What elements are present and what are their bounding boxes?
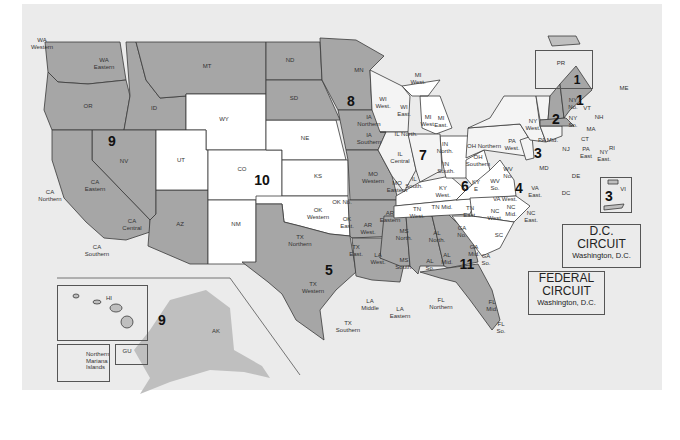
district-la-middle: LA Middle: [361, 298, 379, 311]
district-ok-east: OK East.: [340, 216, 354, 229]
district-va-west: VA West.: [493, 196, 517, 203]
district-in-south: IN South.: [437, 161, 454, 174]
circuit-9-pacific-number: 9: [158, 312, 166, 328]
district-oh-northern: OH Northern: [467, 143, 501, 150]
circuit-3-number: 3: [534, 145, 542, 161]
circuit-11-number: 11: [460, 256, 475, 272]
district-il-north: IL North.: [395, 131, 418, 138]
district-ms-north: MS North.: [396, 228, 412, 241]
district-mt: MT: [203, 63, 212, 70]
hi-inset-box: [57, 285, 148, 341]
pr-island: [548, 36, 580, 46]
district-ms-south: MS South.: [395, 257, 412, 270]
district-il-south: IL South.: [405, 176, 422, 189]
district-az: AZ: [176, 221, 184, 228]
district-wa-western: WA Western: [31, 37, 53, 50]
district-mo-eastern: MO Eastern: [387, 180, 408, 193]
district-fl-northern: FL Northern: [429, 297, 452, 310]
district-nj: NJ: [562, 146, 569, 153]
district-ca-central: CA Central: [122, 218, 141, 231]
district-al-north: AL North.: [429, 230, 445, 243]
district-va-east: VA East.: [528, 185, 542, 198]
district-ia-northern: IA Northern: [357, 114, 380, 127]
district-ca-northern: CA Northern: [38, 189, 61, 202]
district-tx-southern: TX Southern: [336, 320, 360, 333]
district-wv-no: WV No.: [503, 166, 513, 179]
district-nc-mid: NC Mid.: [505, 204, 516, 217]
state-mt: [136, 42, 266, 98]
district-ca-eastern: CA Eastern: [85, 179, 106, 192]
circuit-2-number: 2: [552, 111, 560, 127]
district-nh: NH: [595, 114, 604, 121]
district-vt: VT: [583, 105, 591, 112]
district-wv-so: WV So.: [490, 178, 500, 191]
district-or: OR: [84, 103, 93, 110]
district-ak: AK: [212, 328, 220, 335]
district-sd: SD: [290, 95, 298, 102]
district-ne: NE: [301, 135, 309, 142]
district-nc-east: NC East.: [524, 210, 538, 223]
district-tn-west: TN West.: [409, 206, 424, 219]
district-tx-western: TX Western: [302, 281, 324, 294]
district-ga-no: GA No.: [457, 225, 466, 238]
district-de: DE: [572, 173, 580, 180]
district-ca-southern: CA Southern: [85, 244, 109, 257]
district-ky-west: KY West.: [435, 185, 450, 198]
district-fl-so: FL So.: [496, 321, 505, 334]
district-in-north: IN North.: [437, 141, 453, 154]
district-wi-east: WI East.: [397, 104, 411, 117]
dc-circuit-box: D.C. CIRCUIT Washington, D.C.: [562, 224, 641, 268]
dc-circuit-line2: CIRCUIT: [563, 238, 640, 251]
district-la-eastern: LA Eastern: [390, 306, 411, 319]
federal-circuit-box: FEDERAL CIRCUIT Washington, D.C.: [528, 271, 605, 315]
district-me: ME: [620, 85, 629, 92]
circuit-6-number: 6: [461, 178, 469, 194]
district-ny-no: NY No.: [568, 97, 577, 110]
circuit-9-number: 9: [108, 133, 116, 149]
circuit-5-number: 5: [325, 262, 333, 278]
district-co: CO: [238, 166, 247, 173]
gu-inset-box: [115, 344, 148, 365]
district-tn-east: TN East.: [463, 205, 477, 218]
district-oh-southern: OH Southern: [466, 154, 490, 167]
district-ia-southern: IA Southern: [357, 132, 381, 145]
state-nm: [208, 200, 256, 264]
federal-circuit-line2: CIRCUIT: [529, 285, 604, 298]
district-nd: ND: [286, 57, 295, 64]
district-il-central: IL Central: [390, 151, 409, 164]
district-md: MD: [539, 165, 548, 172]
district-fl-mid: FL Mid.: [486, 299, 497, 312]
district-ky-e: KY E: [472, 179, 480, 192]
circuit-10-number: 10: [254, 172, 270, 188]
federal-circuit-location: Washington, D.C.: [529, 298, 604, 308]
district-id: ID: [151, 105, 157, 112]
district-ks: KS: [314, 173, 322, 180]
mariana-inset-box: [57, 344, 110, 382]
district-ar-eastern: AR Eastern: [380, 210, 401, 223]
dc-circuit-location: Washington, D.C.: [563, 251, 640, 261]
district-pa-east: PA East: [580, 146, 592, 159]
district-tn-mid: TN Mid.: [432, 204, 453, 211]
district-mi-east: MI East.: [434, 115, 448, 128]
district-al-mid: AL Mid.: [441, 252, 452, 265]
district-wy: WY: [219, 116, 229, 123]
district-nc-west: NC West.: [487, 208, 502, 221]
state-co: [208, 150, 282, 200]
district-ar-west: AR West.: [360, 222, 375, 235]
district-ma: MA: [587, 126, 596, 133]
district-mn: MN: [354, 67, 363, 74]
district-ok-western: OK Western: [307, 207, 329, 220]
district-ct: CT: [581, 136, 589, 143]
district-nv: NV: [120, 158, 128, 165]
district-ri: RI: [609, 145, 615, 152]
district-sc: SC: [495, 232, 503, 239]
district-ut: UT: [177, 157, 185, 164]
district-pa-west: PA West.: [504, 138, 519, 151]
district-dc: DC: [562, 190, 571, 197]
district-al-so: AL So.: [425, 258, 434, 271]
district-pa-mid: PA Mid.: [538, 137, 558, 144]
district-nm: NM: [231, 221, 240, 228]
district-ok-no: OK No.: [332, 199, 352, 206]
district-tx-northern: TX Northern: [288, 234, 311, 247]
district-la-west: LA West.: [370, 252, 385, 265]
